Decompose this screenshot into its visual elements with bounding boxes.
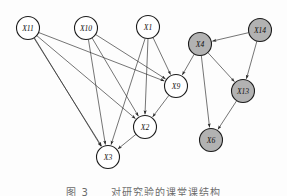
node-circle-x10[interactable] — [75, 17, 98, 40]
graph-edge-x1-to-x2 — [145, 39, 148, 115]
node-circle-x1[interactable] — [137, 16, 160, 39]
graph-edge-x13-to-x6 — [218, 101, 237, 130]
graph-edge-x14-to-x13 — [246, 41, 257, 79]
graph-edge-x4-to-x6 — [201, 55, 209, 127]
node-circle-x4[interactable] — [189, 33, 212, 56]
graph-node-x13[interactable]: X13 — [232, 80, 255, 103]
node-circle-x9[interactable] — [165, 75, 188, 98]
graph-edge-x1-to-x9 — [153, 37, 171, 74]
graph-node-x3[interactable]: X3 — [97, 146, 120, 169]
graph-edge-x14-to-x4 — [212, 33, 248, 42]
node-circle-x2[interactable] — [134, 116, 157, 139]
graph-edge-x11-to-x2 — [37, 36, 136, 119]
figure-caption-band: 图 3 对研究验的课堂课结构 — [0, 184, 287, 196]
figure-caption: 图 3 对研究验的课堂课结构 — [66, 184, 221, 196]
graph-edge-x4-to-x13 — [208, 52, 235, 81]
graph-node-x1[interactable]: X1 — [137, 16, 160, 39]
graph-node-x6[interactable]: X6 — [200, 129, 223, 152]
graph-edge-x11-to-x3 — [34, 38, 102, 146]
node-circle-x3[interactable] — [97, 146, 120, 169]
graph-node-x2[interactable]: X2 — [134, 116, 157, 139]
graph-node-x14[interactable]: X14 — [249, 19, 272, 42]
graph-edge-x4-to-x9 — [182, 54, 194, 75]
graph-node-x4[interactable]: X4 — [189, 33, 212, 56]
graph-node-x9[interactable]: X9 — [165, 75, 188, 98]
graph-node-x10[interactable]: X10 — [75, 17, 98, 40]
causal-graph-svg: X11X10X1X4X14X9X13X2X6X3 — [0, 0, 287, 196]
graph-edge-x2-to-x3 — [118, 134, 136, 149]
graph-edge-x11-to-x9 — [39, 32, 165, 81]
node-circle-x11[interactable] — [17, 17, 40, 40]
node-circle-x13[interactable] — [232, 80, 255, 103]
node-circle-x14[interactable] — [249, 19, 272, 42]
node-circle-x6[interactable] — [200, 129, 223, 152]
figure-root: X11X10X1X4X14X9X13X2X6X3 图 3 对研究验的课堂课结构 — [0, 0, 287, 196]
graph-edge-x9-to-x2 — [153, 95, 169, 117]
graph-node-x11[interactable]: X11 — [17, 17, 40, 40]
